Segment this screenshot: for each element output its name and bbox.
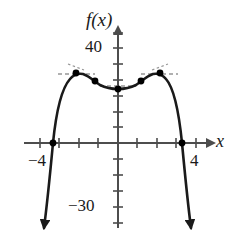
guide-tick-max-right [152, 64, 168, 70]
x-axis-tick-label-4: 4 [190, 152, 199, 169]
guide-tick-max-left [68, 64, 84, 70]
y-axis-tick-label-negative-30: −30 [68, 197, 95, 214]
x-axis-tick-label-negative-4: −4 [28, 152, 46, 169]
point-local-maximum-left [73, 70, 80, 77]
x-axis-label: x [216, 132, 224, 150]
point-x-intercept-left [50, 140, 57, 147]
function-label: f(x) [86, 10, 112, 29]
point-local-minimum [115, 86, 122, 93]
point-x-intercept-right [179, 140, 186, 147]
graph-figure: f(x) x 40 −30 −4 4 [0, 0, 240, 243]
point-local-maximum-right [157, 70, 164, 77]
function-plot-svg [0, 0, 240, 243]
point-inflection-right [138, 78, 145, 85]
y-axis-tick-label-40: 40 [85, 38, 102, 55]
function-curve-right-branch [118, 74, 191, 228]
point-inflection-left [92, 78, 99, 85]
